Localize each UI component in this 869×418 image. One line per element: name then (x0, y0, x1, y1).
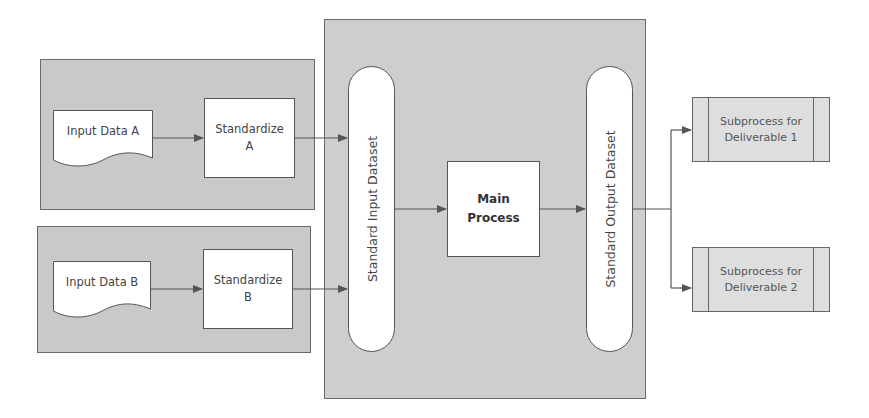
standard-output-dataset-pill: Standard Output Dataset (586, 66, 633, 352)
main-process-box: Main Process (447, 161, 540, 257)
standardize-a-box: Standardize A (204, 98, 295, 178)
standardize-b-label-line2: B (244, 289, 252, 306)
main-process-label-line1: Main (477, 190, 510, 209)
input-data-a-document: Input Data A (53, 110, 153, 168)
subprocess-2-line2: Deliverable 2 (720, 280, 802, 296)
subprocess-1-line2: Deliverable 1 (720, 130, 802, 146)
subprocess-1-line1: Subprocess for (720, 114, 802, 130)
subprocess-2-line1: Subprocess for (720, 264, 802, 280)
standardize-b-box: Standardize B (203, 249, 293, 329)
subprocess-deliverable-1: Subprocess for Deliverable 1 (692, 97, 830, 162)
standard-input-dataset-label: Standard Input Dataset (364, 136, 379, 282)
subprocess-deliverable-1-label: Subprocess for Deliverable 1 (708, 98, 814, 161)
standard-input-dataset-pill: Standard Input Dataset (348, 66, 395, 352)
document-shape-icon (53, 110, 153, 168)
standardize-a-label-line1: Standardize (215, 121, 284, 138)
input-data-a-label: Input Data A (53, 124, 153, 138)
standard-output-dataset-label: Standard Output Dataset (602, 130, 617, 287)
standardize-b-label-line1: Standardize (214, 272, 283, 289)
input-data-b-label: Input Data B (53, 275, 151, 289)
standardize-a-label-line2: A (246, 138, 254, 155)
subprocess-deliverable-2: Subprocess for Deliverable 2 (692, 247, 830, 312)
input-data-b-document: Input Data B (53, 261, 151, 319)
main-process-label-line2: Process (467, 209, 520, 228)
subprocess-deliverable-2-label: Subprocess for Deliverable 2 (708, 248, 814, 311)
document-shape-icon (53, 261, 151, 319)
